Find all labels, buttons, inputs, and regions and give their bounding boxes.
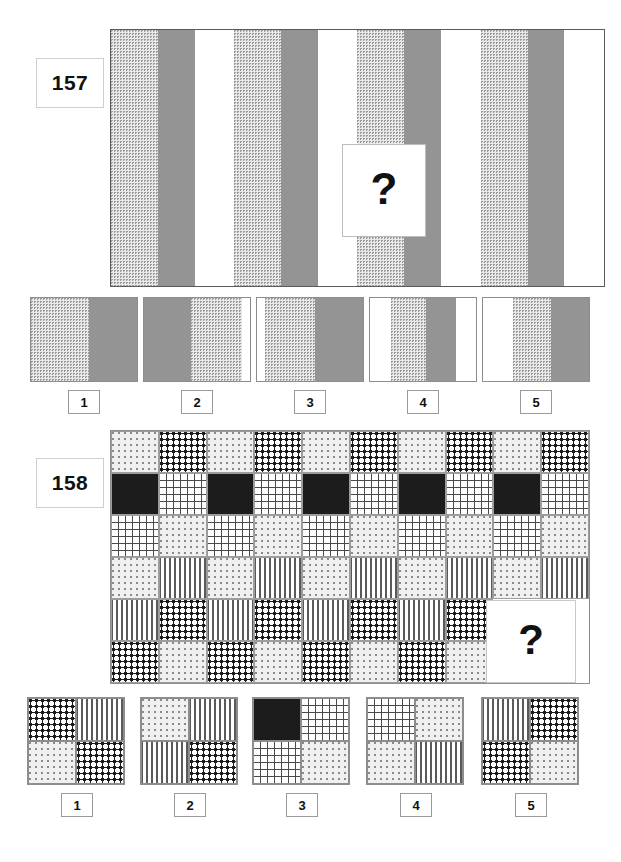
grid-cell-r5-c6-bolddot <box>350 599 398 641</box>
option-158-4[interactable]: 4 <box>366 697 466 817</box>
option-157-3-number[interactable]: 3 <box>294 390 326 414</box>
option-158-3-quadrant-top-left-black <box>253 698 301 741</box>
grid-cell-r3-c7-grid <box>398 515 446 557</box>
puzzle-number-158: 158 <box>36 458 104 508</box>
grid-cell-r1-c1-lightdot <box>111 431 159 473</box>
stripe-10-screen <box>481 30 528 286</box>
grid-cell-r3-c9-grid <box>493 515 541 557</box>
grid-cell-r5-c4-bolddot <box>254 599 302 641</box>
option-157-2-number[interactable]: 2 <box>181 390 213 414</box>
option-158-3-quadrant-bottom-left-grid <box>253 741 301 784</box>
option-158-5-figure[interactable] <box>481 697 579 785</box>
grid-cell-r6-c4-lightdot <box>254 641 302 683</box>
option-157-2-figure[interactable] <box>143 297 251 382</box>
grid-cell-r1-c2-bolddot <box>159 431 207 473</box>
option-158-5[interactable]: 5 <box>481 697 581 817</box>
option-157-5-segment-1-white <box>483 298 513 381</box>
option-158-1-number[interactable]: 1 <box>61 793 93 817</box>
option-158-2-figure[interactable] <box>140 697 238 785</box>
grid-cell-r2-c8-grid <box>446 473 494 515</box>
grid-cell-r1-c6-bolddot <box>350 431 398 473</box>
option-157-4-number[interactable]: 4 <box>407 390 439 414</box>
stripe-12-white <box>564 30 604 286</box>
grid-cell-r3-c4-lightdot <box>254 515 302 557</box>
grid-cell-r4-c1-lightdot <box>111 557 159 599</box>
option-158-4-quadrant-top-left-grid <box>367 698 415 741</box>
option-158-1[interactable]: 1 <box>27 697 127 817</box>
grid-cell-r3-c2-lightdot <box>159 515 207 557</box>
grid-cell-r1-c8-bolddot <box>446 431 494 473</box>
grid-cell-r1-c9-lightdot <box>493 431 541 473</box>
option-157-3-segment-1-white <box>257 298 265 381</box>
grid-cell-r4-c6-vert <box>350 557 398 599</box>
grid-cell-r5-c7-vert <box>398 599 446 641</box>
option-158-2[interactable]: 2 <box>140 697 240 817</box>
stripe-11-gray <box>528 30 565 286</box>
option-157-4[interactable]: 4 <box>369 297 477 414</box>
grid-cell-r4-c2-vert <box>159 557 207 599</box>
option-158-3-number[interactable]: 3 <box>286 793 318 817</box>
grid-cell-r2-c9-black <box>493 473 541 515</box>
grid-cell-r1-c7-lightdot <box>398 431 446 473</box>
option-158-3-quadrant-bottom-right-lightdot <box>301 741 349 784</box>
option-157-5-number[interactable]: 5 <box>520 390 552 414</box>
option-157-3-figure[interactable] <box>256 297 364 382</box>
option-157-2-segment-1-gray <box>144 298 191 381</box>
option-158-2-number[interactable]: 2 <box>174 793 206 817</box>
option-157-2-segment-3-white <box>242 298 250 381</box>
option-157-4-segment-4-white <box>456 298 476 381</box>
option-158-4-number[interactable]: 4 <box>400 793 432 817</box>
grid-cell-r3-c1-grid <box>111 515 159 557</box>
grid-cell-r2-c1-black <box>111 473 159 515</box>
option-157-3[interactable]: 3 <box>256 297 364 414</box>
option-157-4-segment-1-white <box>370 298 391 381</box>
grid-cell-r4-c7-lightdot <box>398 557 446 599</box>
option-158-4-quadrant-top-right-lightdot <box>415 698 463 741</box>
grid-cell-r4-c4-vert <box>254 557 302 599</box>
option-158-1-quadrant-bottom-right-bolddot <box>76 741 124 784</box>
puzzle-number-157: 157 <box>36 58 104 108</box>
grid-cell-r6-c2-lightdot <box>159 641 207 683</box>
option-157-1-number[interactable]: 1 <box>68 390 100 414</box>
grid-cell-r6-c1-bolddot <box>111 641 159 683</box>
grid-cell-r5-c5-vert <box>302 599 350 641</box>
option-157-5-figure[interactable] <box>482 297 590 382</box>
grid-cell-r4-c3-lightdot <box>207 557 255 599</box>
option-158-4-figure[interactable] <box>366 697 464 785</box>
option-157-1[interactable]: 1 <box>30 297 138 414</box>
option-157-3-segment-3-gray <box>315 298 363 381</box>
grid-cell-r2-c5-black <box>302 473 350 515</box>
grid-cell-r3-c8-lightdot <box>446 515 494 557</box>
grid-cell-r3-c5-grid <box>302 515 350 557</box>
puzzle-157-options-row: 12345 <box>0 297 621 412</box>
option-158-3[interactable]: 3 <box>252 697 352 817</box>
option-158-2-quadrant-bottom-right-bolddot <box>189 741 237 784</box>
option-158-5-number[interactable]: 5 <box>515 793 547 817</box>
grid-cell-r2-c3-black <box>207 473 255 515</box>
grid-cell-r5-c1-vert <box>111 599 159 641</box>
stripe-2-gray <box>158 30 195 286</box>
option-157-1-segment-1-screen <box>31 298 89 381</box>
grid-cell-r4-c9-lightdot <box>493 557 541 599</box>
option-157-4-segment-3-gray <box>426 298 456 381</box>
option-157-5[interactable]: 5 <box>482 297 590 414</box>
grid-cell-r2-c10-grid <box>541 473 589 515</box>
grid-cell-r3-c3-grid <box>207 515 255 557</box>
option-158-3-figure[interactable] <box>252 697 350 785</box>
option-158-4-quadrant-bottom-right-vert <box>415 741 463 784</box>
grid-cell-r4-c8-vert <box>446 557 494 599</box>
grid-cell-r5-c3-vert <box>207 599 255 641</box>
grid-cell-r2-c7-black <box>398 473 446 515</box>
option-157-3-segment-2-screen <box>265 298 315 381</box>
option-158-4-quadrant-bottom-left-lightdot <box>367 741 415 784</box>
grid-cell-r2-c4-grid <box>254 473 302 515</box>
puzzle-158-options-row: 12345 <box>0 697 621 812</box>
grid-cell-r6-c3-bolddot <box>207 641 255 683</box>
option-157-4-figure[interactable] <box>369 297 477 382</box>
option-157-1-figure[interactable] <box>30 297 138 382</box>
grid-cell-r3-c10-lightdot <box>541 515 589 557</box>
option-157-2[interactable]: 2 <box>143 297 251 414</box>
option-158-1-figure[interactable] <box>27 697 125 785</box>
grid-cell-r2-c6-grid <box>350 473 398 515</box>
grid-cell-r5-c2-bolddot <box>159 599 207 641</box>
